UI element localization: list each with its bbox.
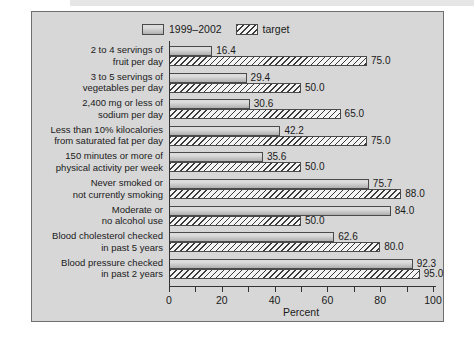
scan-artifact-strip	[70, 0, 474, 6]
value-label: 88.0	[405, 188, 424, 200]
category-label: Never smoked or not currently smoking	[32, 177, 163, 200]
x-tick	[195, 287, 196, 292]
bar-target	[169, 189, 401, 199]
x-tick	[327, 287, 328, 292]
value-label: 95.0	[424, 268, 443, 280]
x-tick	[433, 287, 434, 292]
bar-1999-2002	[169, 206, 391, 216]
bar-1999-2002	[169, 46, 212, 56]
bar-target	[169, 242, 380, 252]
bar-1999-2002	[169, 179, 369, 189]
value-label: 50.0	[305, 82, 324, 94]
x-tick	[407, 287, 408, 292]
category-label: 2 to 4 servings of fruit per day	[32, 44, 163, 67]
category-label: Moderate or no alcohol use	[32, 204, 163, 227]
bar-1999-2002	[169, 259, 413, 269]
x-tick-label: 40	[260, 294, 290, 306]
x-tick-label: 20	[207, 294, 237, 306]
x-tick-label: 0	[154, 294, 184, 306]
value-label: 75.0	[371, 135, 390, 147]
bar-target	[169, 269, 420, 279]
bar-1999-2002	[169, 152, 263, 162]
value-label: 50.0	[305, 215, 324, 227]
x-axis-title: Percent	[256, 306, 346, 318]
x-tick	[248, 287, 249, 292]
category-label: 150 minutes or more of physical activity…	[32, 150, 163, 173]
bar-target	[169, 109, 341, 119]
x-axis-line	[169, 286, 436, 287]
category-label: 3 to 5 servings of vegetables per day	[32, 71, 163, 94]
value-label: 80.0	[384, 241, 403, 253]
x-tick	[169, 287, 170, 292]
x-tick-label: 80	[365, 294, 395, 306]
x-tick-label: 60	[312, 294, 342, 306]
category-label: Blood pressure checked in past 2 years	[32, 257, 163, 280]
bar-target	[169, 136, 367, 146]
chart-panel: 1999–2002 target 2 to 4 servings of frui…	[31, 11, 444, 322]
bar-1999-2002	[169, 73, 247, 83]
figure: 1999–2002 target 2 to 4 servings of frui…	[0, 0, 474, 338]
category-label: Less than 10% kilocalories from saturate…	[32, 124, 163, 147]
bar-target	[169, 83, 301, 93]
bar-1999-2002	[169, 99, 250, 109]
x-tick	[275, 287, 276, 292]
value-label: 65.0	[345, 108, 364, 120]
x-tick	[380, 287, 381, 292]
y-axis-line	[169, 41, 170, 287]
bar-1999-2002	[169, 126, 280, 136]
x-tick	[301, 287, 302, 292]
bar-target	[169, 56, 367, 66]
category-label: Blood cholesterol checked in past 5 year…	[32, 230, 163, 253]
value-label: 84.0	[395, 205, 414, 217]
plot-area: 2 to 4 servings of fruit per day16.475.0…	[32, 12, 443, 321]
x-tick	[222, 287, 223, 292]
x-tick-label: 100	[418, 294, 448, 306]
bar-target	[169, 162, 301, 172]
x-tick	[354, 287, 355, 292]
category-label: 2,400 mg or less of sodium per day	[32, 97, 163, 120]
value-label: 50.0	[305, 161, 324, 173]
bar-1999-2002	[169, 232, 334, 242]
bar-target	[169, 216, 301, 226]
value-label: 75.0	[371, 55, 390, 67]
